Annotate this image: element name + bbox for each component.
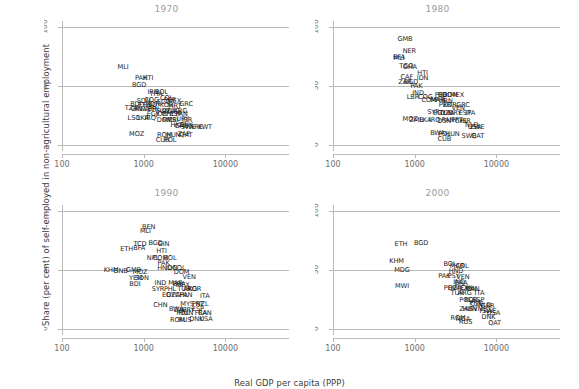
data-point-label: ZWE (470, 124, 485, 131)
x-tick-mark (333, 154, 334, 158)
data-point-label: QAT (471, 133, 484, 140)
x-tick-label: 1000 (134, 344, 154, 353)
facet-panel-1990: 1990050100100100010000BENMLITCDBGDGINBFA… (44, 188, 289, 364)
x-tick-mark (144, 338, 145, 342)
data-point-label: MLI (393, 55, 404, 62)
data-point-label: GMB (397, 36, 412, 43)
x-axis-spine (333, 154, 560, 155)
y-tick-label: 100 (44, 18, 49, 39)
x-tick-mark (496, 338, 497, 342)
x-axis-spine (333, 338, 560, 339)
x-tick-label: 1000 (134, 160, 154, 169)
data-point-label: MDG (394, 267, 410, 274)
x-tick-label: 100 (325, 160, 340, 169)
plot-area: 050100100100010000MLIPAKHTIBGDIRNTHABOLC… (44, 18, 289, 180)
gridline (62, 27, 289, 28)
facet-title: 2000 (315, 188, 560, 198)
gridline (333, 27, 560, 28)
data-point-label: RUS (459, 318, 472, 325)
y-tick-label: 100 (44, 202, 49, 223)
x-tick-mark (415, 154, 416, 158)
gridline (62, 211, 289, 212)
data-point-label: KHM (389, 257, 404, 264)
y-axis-spine (333, 205, 334, 334)
plot-area: 050100100100010000ETHBGDKHMBOLMARCOLMDGH… (315, 202, 560, 364)
x-tick-label: 1000 (405, 344, 425, 353)
data-point-label: MOZ (129, 131, 144, 138)
data-point-label: CUB (437, 135, 451, 142)
data-point-label: ETH (120, 246, 133, 253)
y-axis-spine (333, 21, 334, 150)
data-point-label: POL (164, 137, 177, 144)
data-point-label: MLI (118, 64, 129, 71)
x-tick-mark (225, 154, 226, 158)
data-point-label: BGD (414, 240, 428, 247)
y-axis-spine (62, 205, 63, 334)
facet-title: 1990 (44, 188, 289, 198)
x-tick-label: 100 (54, 344, 69, 353)
x-axis-spine (62, 338, 289, 339)
data-point-label: IDN (417, 74, 429, 81)
facet-panel-1970: 1970050100100100010000MLIPAKHTIBGDIRNTHA… (44, 4, 289, 180)
x-tick-label: 100 (54, 160, 69, 169)
data-point-label: MLI (140, 228, 151, 235)
x-tick-label: 10000 (213, 160, 238, 169)
plot-area: 050100100100010000GMBNERBFAMLITGOGHAHTIC… (315, 18, 560, 180)
y-tick-label: 0 (44, 316, 49, 340)
y-tick-label: 100 (315, 18, 320, 39)
data-point-label: MWI (395, 283, 409, 290)
data-point-label: KWT (198, 124, 212, 131)
x-tick-mark (225, 338, 226, 342)
x-tick-mark (144, 154, 145, 158)
y-axis-spine (62, 21, 63, 150)
data-point-label: PAN (180, 291, 193, 298)
y-tick-label: 0 (315, 316, 320, 340)
chart-root: Share (per cent) of self-employed in non… (0, 0, 579, 389)
data-point-label: BDI (129, 281, 140, 288)
gridline (62, 329, 289, 330)
y-tick-label: 50 (44, 74, 49, 98)
x-tick-label: 10000 (484, 160, 509, 169)
gridline (333, 329, 560, 330)
x-tick-mark (333, 338, 334, 342)
data-point-label: ETH (395, 241, 408, 248)
plot-area: 050100100100010000BENMLITCDBGDGINBFAETHH… (44, 202, 289, 364)
x-axis-label: Real GDP per capita (PPP) (0, 378, 579, 388)
y-tick-label: 50 (315, 74, 320, 98)
x-tick-label: 10000 (484, 344, 509, 353)
facet-panel-1980: 1980050100100100010000GMBNERBFAMLITGOGHA… (315, 4, 560, 180)
data-point-label: QAT (488, 319, 501, 326)
data-point-label: BFA (133, 244, 145, 251)
data-point-label: DSN (437, 118, 451, 125)
gridline (333, 145, 560, 146)
gridline (62, 145, 289, 146)
data-point-label: GHA (403, 64, 417, 71)
data-point-label: ZAF (178, 131, 191, 138)
x-tick-label: 10000 (213, 344, 238, 353)
x-axis-spine (62, 154, 289, 155)
gridline (333, 211, 560, 212)
y-tick-label: 0 (315, 132, 320, 156)
facet-title: 1970 (44, 4, 289, 14)
y-tick-label: 50 (44, 258, 49, 282)
x-tick-mark (62, 338, 63, 342)
y-tick-label: 50 (315, 258, 320, 282)
facet-panel-2000: 2000050100100100010000ETHBGDKHMBOLMARCOL… (315, 188, 560, 364)
data-point-label: IRQ (144, 114, 155, 121)
data-point-label: ITA (466, 110, 476, 117)
data-point-label: CHN (153, 302, 167, 309)
data-point-label: USA (199, 316, 212, 323)
y-tick-label: 100 (315, 202, 320, 223)
gridline (62, 86, 289, 87)
y-tick-label: 0 (44, 132, 49, 156)
x-tick-label: 1000 (405, 160, 425, 169)
data-point-label: BGD (132, 82, 146, 89)
gridline (333, 86, 560, 87)
x-tick-label: 100 (325, 344, 340, 353)
facet-title: 1980 (315, 4, 560, 14)
x-tick-mark (496, 154, 497, 158)
x-tick-mark (415, 338, 416, 342)
x-tick-mark (62, 154, 63, 158)
data-point-label: ITA (200, 292, 210, 299)
